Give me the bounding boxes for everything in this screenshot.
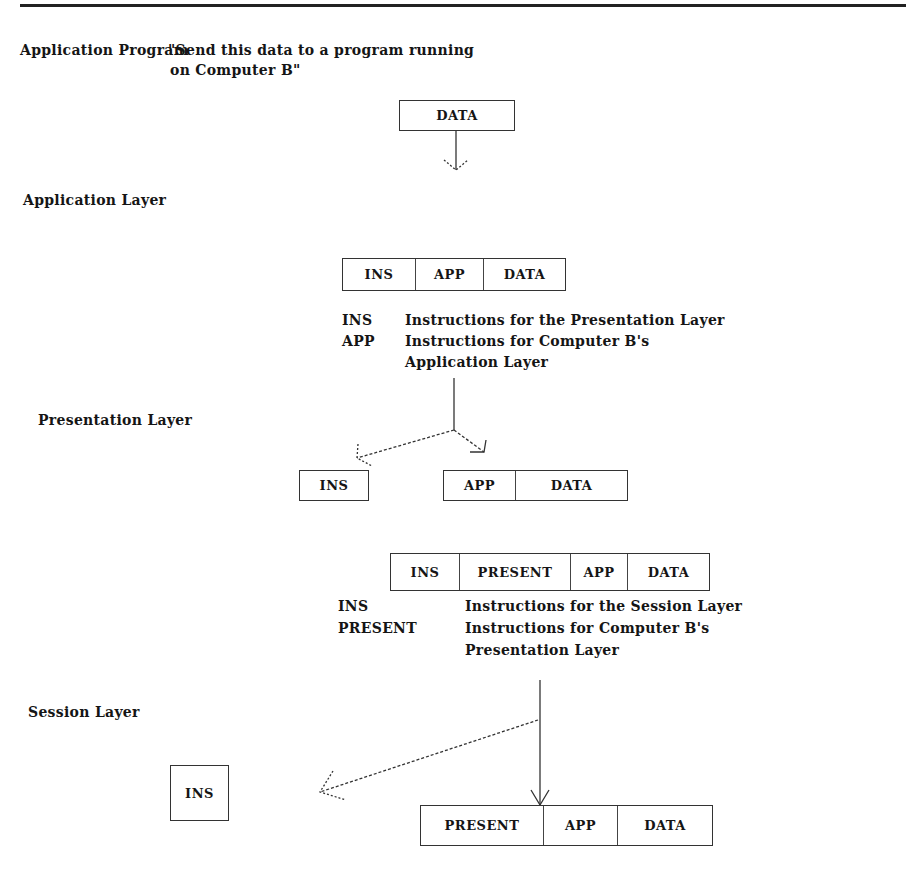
cell-data: DATA [484, 259, 565, 290]
cell-app: APP [544, 806, 618, 845]
sess-rest-box: PRESENT APP DATA [420, 805, 713, 846]
quote-line-2: on Computer B" [170, 62, 301, 78]
pres-ins-box: INS [299, 470, 369, 501]
cell-data: DATA [516, 471, 627, 500]
legend2-key-0: INS [338, 598, 368, 614]
legend2-key-1: PRESENT [338, 620, 417, 636]
legend1-key-0: INS [342, 312, 372, 328]
app-layer-packet: INS APP DATA [342, 258, 566, 291]
cell-app: APP [571, 554, 628, 590]
cell-data: DATA [628, 554, 709, 590]
legend2-text-2: Presentation Layer [465, 642, 619, 658]
label-application-layer: Application Layer [23, 192, 166, 208]
cell-ins: INS [171, 766, 228, 820]
flow-arrows [0, 0, 906, 875]
label-session-layer: Session Layer [28, 704, 140, 720]
pres-layer-packet: INS PRESENT APP DATA [390, 553, 710, 591]
pres-app-data-box: APP DATA [443, 470, 628, 501]
legend2-text-1: Instructions for Computer B's [465, 620, 709, 636]
quote-line-1: "Send this data to a program running [168, 42, 474, 58]
sess-ins-box: INS [170, 765, 229, 821]
cell-present: PRESENT [460, 554, 571, 590]
data-box: DATA [399, 100, 515, 131]
legend2-text-0: Instructions for the Session Layer [465, 598, 742, 614]
legend1-text-2: Application Layer [405, 354, 548, 370]
label-presentation-layer: Presentation Layer [38, 412, 192, 428]
legend1-text-1: Instructions for Computer B's [405, 333, 649, 349]
legend1-text-0: Instructions for the Presentation Layer [405, 312, 725, 328]
cell-present: PRESENT [421, 806, 544, 845]
cell-ins: INS [300, 471, 368, 500]
cell-ins: INS [391, 554, 460, 590]
label-application-program: Application Program [20, 42, 189, 58]
cell-data: DATA [618, 806, 712, 845]
legend1-key-1: APP [342, 333, 375, 349]
cell-app: APP [416, 259, 484, 290]
cell-data: DATA [400, 101, 514, 130]
cell-app: APP [444, 471, 516, 500]
cell-ins: INS [343, 259, 416, 290]
